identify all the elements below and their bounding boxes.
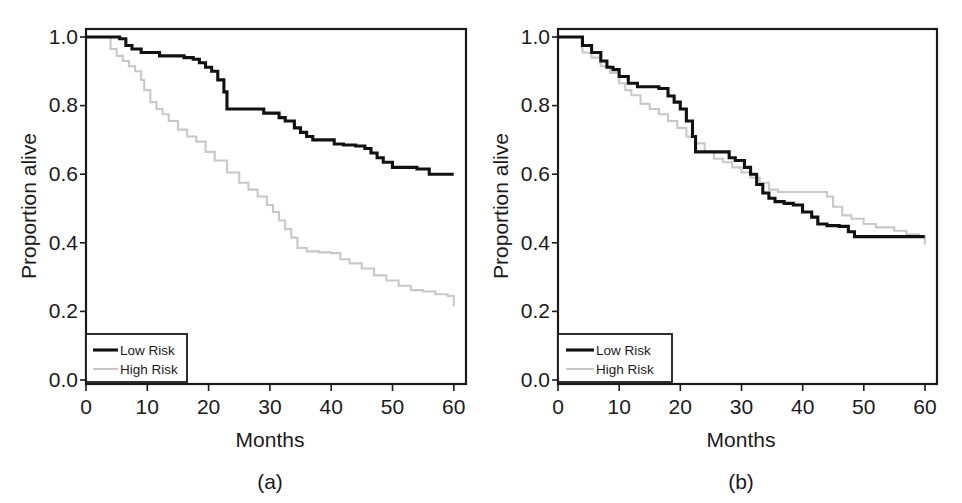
y-tick-label: 0.0 xyxy=(49,368,78,391)
y-tick-label: 0.2 xyxy=(521,299,550,322)
figure-survival-curves: 1.0 0.8 0.6 0.4 0.2 0.0 xyxy=(0,0,962,503)
panel-caption: (a) xyxy=(257,470,283,493)
panel-a-plot: 1.0 0.8 0.6 0.4 0.2 0.0 xyxy=(0,0,481,503)
panel-b: 1.0 0.8 0.6 0.4 0.2 0.0 xyxy=(481,0,962,503)
legend-label-low-risk: Low Risk xyxy=(120,343,175,358)
x-tick-label: 20 xyxy=(197,395,220,418)
y-tick-label: 1.0 xyxy=(521,25,550,48)
x-tick-label: 0 xyxy=(552,395,564,418)
panel-caption: (b) xyxy=(728,470,754,493)
legend: Low Risk High Risk xyxy=(86,334,187,382)
panel-a: 1.0 0.8 0.6 0.4 0.2 0.0 xyxy=(0,0,481,503)
y-tick-label: 1.0 xyxy=(49,25,78,48)
x-tick-label: 10 xyxy=(136,395,159,418)
y-tick-label: 0.2 xyxy=(49,299,78,322)
legend-label-low-risk: Low Risk xyxy=(596,343,651,358)
x-axis-title: Months xyxy=(236,428,305,451)
series-high-risk-line xyxy=(86,37,454,306)
plot-frame xyxy=(558,29,937,384)
x-tick-label: 0 xyxy=(80,395,92,418)
y-axis-title: Proportion alive xyxy=(17,133,40,279)
x-tick-label: 60 xyxy=(913,395,936,418)
legend: Low Risk High Risk xyxy=(558,334,672,382)
x-axis-title: Months xyxy=(707,428,776,451)
y-tick-label: 0.8 xyxy=(49,93,78,116)
y-tick-label: 0.6 xyxy=(49,162,78,185)
panel-b-plot: 1.0 0.8 0.6 0.4 0.2 0.0 xyxy=(481,0,962,503)
x-tick-label: 30 xyxy=(258,395,281,418)
plot-frame xyxy=(86,29,466,384)
y-tick-label: 0.0 xyxy=(521,368,550,391)
x-tick-label: 30 xyxy=(730,395,753,418)
y-tick-label: 0.4 xyxy=(521,231,551,254)
x-tick-label: 10 xyxy=(608,395,631,418)
y-tick-label: 0.8 xyxy=(521,93,550,116)
series-low-risk-line xyxy=(86,37,454,174)
y-axis-title: Proportion alive xyxy=(489,133,512,279)
legend-label-high-risk: High Risk xyxy=(120,362,178,377)
y-tick-label: 0.4 xyxy=(49,231,79,254)
x-tick-label: 40 xyxy=(791,395,814,418)
x-tick-label: 50 xyxy=(381,395,404,418)
x-tick-label: 60 xyxy=(442,395,465,418)
x-tick-label: 40 xyxy=(320,395,343,418)
x-tick-label: 50 xyxy=(852,395,875,418)
x-tick-label: 20 xyxy=(669,395,692,418)
series-low-risk-line xyxy=(558,37,925,237)
legend-label-high-risk: High Risk xyxy=(596,362,654,377)
y-tick-label: 0.6 xyxy=(521,162,550,185)
